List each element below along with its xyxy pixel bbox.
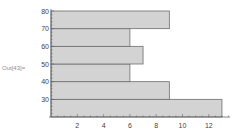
histogram-bar bbox=[51, 64, 130, 82]
histogram-chart: 24681012304050607080 bbox=[0, 0, 244, 140]
y-tick-label: 80 bbox=[41, 8, 49, 15]
y-tick-label: 70 bbox=[41, 25, 49, 32]
y-tick-label: 60 bbox=[41, 43, 49, 50]
x-tick-label: 6 bbox=[128, 122, 132, 129]
x-tick-label: 4 bbox=[102, 122, 106, 129]
y-tick-label: 40 bbox=[41, 78, 49, 85]
x-tick-label: 8 bbox=[154, 122, 158, 129]
histogram-bar bbox=[51, 99, 222, 117]
x-tick-label: 10 bbox=[179, 122, 187, 129]
histogram-bar bbox=[51, 29, 130, 47]
x-tick-label: 2 bbox=[75, 122, 79, 129]
y-tick-label: 30 bbox=[41, 96, 49, 103]
y-tick-label: 50 bbox=[41, 61, 49, 68]
histogram-bar bbox=[51, 82, 169, 100]
histogram-bar bbox=[51, 11, 169, 29]
histogram-bar bbox=[51, 46, 143, 64]
x-tick-label: 12 bbox=[205, 122, 213, 129]
